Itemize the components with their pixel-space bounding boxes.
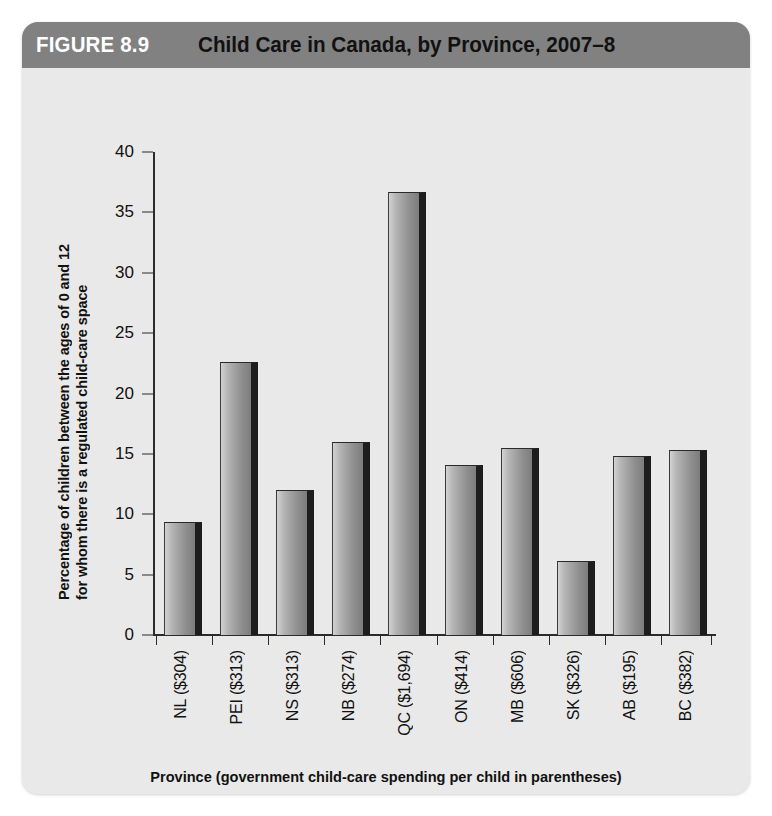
x-axis-tick-mark xyxy=(156,634,157,645)
bar xyxy=(220,362,258,635)
bar xyxy=(501,448,539,635)
y-axis-tick-mark xyxy=(142,453,153,454)
figure-header: FIGURE 8.9 Child Care in Canada, by Prov… xyxy=(22,22,750,68)
x-axis-category-label: PEI ($313) xyxy=(228,650,246,725)
bar xyxy=(388,192,426,635)
x-axis-tick-mark xyxy=(212,634,213,645)
y-axis-tick-labels: 0510152025303540 xyxy=(100,68,134,794)
bar xyxy=(613,456,651,635)
x-axis-category-label: NB ($274) xyxy=(340,650,358,721)
x-axis-tick-mark xyxy=(437,634,438,645)
x-axis-tick-mark xyxy=(549,634,550,645)
y-axis-tick-marks xyxy=(142,68,153,794)
bar xyxy=(276,490,314,635)
bar xyxy=(332,442,370,635)
x-axis-tick-mark xyxy=(380,634,381,645)
chart-plot-area: Percentage of children between the ages … xyxy=(22,68,750,794)
y-axis-tick-label: 40 xyxy=(100,142,134,162)
bar xyxy=(557,561,595,635)
x-axis-category-label: AB ($195) xyxy=(621,650,639,720)
bar-series xyxy=(155,152,716,635)
x-axis-category-label: ON ($414) xyxy=(453,650,471,723)
x-axis-tick-mark xyxy=(605,634,606,645)
bar xyxy=(669,450,707,635)
y-axis-tick-mark xyxy=(142,212,153,213)
x-axis-category-labels: NL ($304)PEI ($313)NS ($313)NB ($274)QC … xyxy=(153,650,716,770)
x-axis-category-label: QC ($1,694) xyxy=(396,650,414,736)
x-axis-tick-mark xyxy=(661,634,662,645)
y-axis-title-line-1: Percentage of children between the ages … xyxy=(56,130,72,600)
y-axis-tick-label: 20 xyxy=(100,384,134,404)
x-axis-category-label: SK ($326) xyxy=(565,650,583,720)
figure-title-label: Child Care in Canada, by Province, 2007–… xyxy=(198,32,615,58)
y-axis-tick-label: 0 xyxy=(100,625,134,645)
x-axis-tick-mark xyxy=(711,634,712,645)
x-axis-title: Province (government child-care spending… xyxy=(33,768,739,785)
x-axis-category-label: NL ($304) xyxy=(172,650,190,719)
x-axis-tick-marks xyxy=(153,634,716,646)
x-axis-tick-mark xyxy=(268,634,269,645)
x-axis-tick-mark xyxy=(324,634,325,645)
y-axis-tick-mark xyxy=(142,152,153,153)
y-axis-tick-mark xyxy=(142,333,153,334)
y-axis-tick-label: 15 xyxy=(100,444,134,464)
y-axis-tick-label: 5 xyxy=(100,565,134,585)
x-axis-tick-mark xyxy=(493,634,494,645)
bar xyxy=(445,465,483,635)
y-axis-tick-mark xyxy=(142,514,153,515)
y-axis-tick-mark xyxy=(142,272,153,273)
y-axis-tick-label: 35 xyxy=(100,202,134,222)
y-axis-tick-mark xyxy=(142,574,153,575)
y-axis-tick-label: 30 xyxy=(100,263,134,283)
y-axis-tick-label: 25 xyxy=(100,323,134,343)
figure-panel: FIGURE 8.9 Child Care in Canada, by Prov… xyxy=(22,22,750,794)
figure-number-label: FIGURE 8.9 xyxy=(36,32,149,58)
y-axis-tick-label: 10 xyxy=(100,504,134,524)
y-axis-tick-mark xyxy=(142,393,153,394)
y-axis-tick-mark xyxy=(142,635,153,636)
x-axis-category-label: MB ($606) xyxy=(509,650,527,723)
x-axis-category-label: BC ($382) xyxy=(677,650,695,721)
bar xyxy=(164,522,202,636)
x-axis-category-label: NS ($313) xyxy=(284,650,302,721)
y-axis-title-line-2: for whom there is a regulated child-care… xyxy=(74,130,90,600)
